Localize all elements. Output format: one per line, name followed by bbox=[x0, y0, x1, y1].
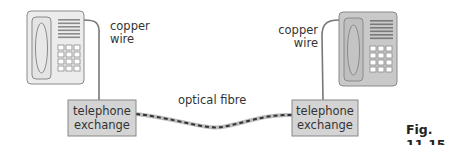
optical-fibre-link bbox=[136, 114, 292, 127]
optical-fibre-label: optical fibre bbox=[178, 94, 246, 107]
right-wire-label-line2: wire bbox=[278, 37, 318, 50]
right-copper-wire-label: copper wire bbox=[278, 24, 318, 50]
right-exchange-label: telephone exchange bbox=[292, 104, 358, 132]
left-exchange-line1: telephone bbox=[68, 104, 136, 118]
figure-caption: Fig. 11.15 bbox=[406, 122, 469, 145]
left-copper-wire-label: copper wire bbox=[110, 20, 150, 46]
left-copper-wire bbox=[84, 20, 99, 100]
right-exchange-line2: exchange bbox=[292, 118, 358, 132]
left-wire-label-line2: wire bbox=[110, 33, 150, 46]
right-telephone-icon bbox=[339, 12, 397, 86]
left-exchange-line2: exchange bbox=[68, 118, 136, 132]
left-telephone-icon bbox=[27, 11, 84, 84]
left-exchange-label: telephone exchange bbox=[68, 104, 136, 132]
right-copper-wire bbox=[322, 20, 339, 100]
right-exchange-line1: telephone bbox=[292, 104, 358, 118]
